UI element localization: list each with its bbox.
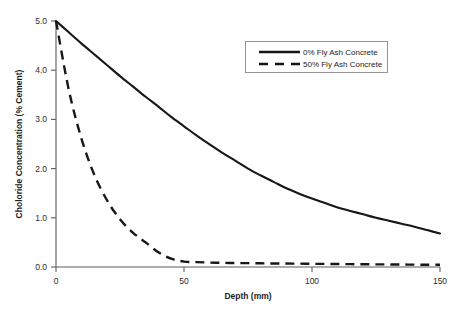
x-axis-ticks <box>56 267 440 272</box>
x-tick-label-2: 100 <box>305 276 319 286</box>
chart-figure: 0.0 1.0 2.0 3.0 4.0 5.0 0 50 100 150 Dep… <box>0 0 461 312</box>
x-tick-label-0: 0 <box>54 276 59 286</box>
y-tick-label-0: 0.0 <box>35 262 47 272</box>
y-tick-label-1: 1.0 <box>35 213 47 223</box>
y-tick-label-3: 3.0 <box>35 114 47 124</box>
x-tick-label-3: 150 <box>433 276 447 286</box>
legend-label-1: 50% Fly Ash Concrete <box>303 60 383 69</box>
y-axis-ticks <box>51 21 56 267</box>
x-tick-label-1: 50 <box>179 276 189 286</box>
legend-label-0: 0% Fly Ash Concrete <box>303 48 378 57</box>
x-axis-title: Depth (mm) <box>224 291 271 301</box>
y-tick-label-2: 2.0 <box>35 164 47 174</box>
chart-legend: 0% Fly Ash Concrete 50% Fly Ash Concrete <box>246 42 388 73</box>
chart-plot-area: 0.0 1.0 2.0 3.0 4.0 5.0 0 50 100 150 Dep… <box>0 0 461 312</box>
y-axis-title: Choloride Concentration (% Cement) <box>14 69 24 218</box>
y-tick-label-5: 5.0 <box>35 16 47 26</box>
y-tick-label-4: 4.0 <box>35 65 47 75</box>
